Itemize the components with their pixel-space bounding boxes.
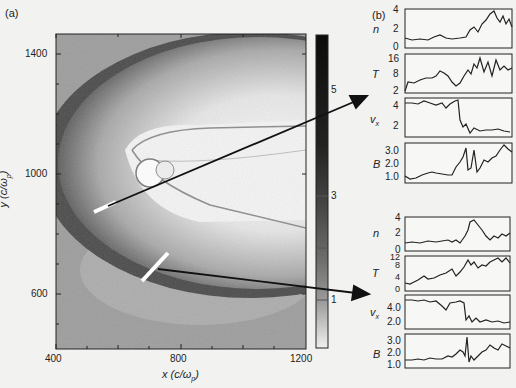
lower-vx-tick-4: 4.0 [387,302,401,313]
x-tick-400: 400 [45,353,62,364]
lower-T-tick-0: 0 [395,284,400,294]
upper-B-tick-1: 1.0 [385,171,399,182]
lower-B-tick-3: 3.0 [387,335,401,346]
colorbar [316,35,328,348]
upper-B-tick-3: 3.0 [385,145,399,156]
upper-T-tick-8: 8 [393,68,399,79]
upper-B-label: B [373,158,380,170]
x-tick-800: 800 [170,353,187,364]
y-tick-1400: 1400 [25,48,47,59]
figure-graphics [0,0,516,388]
upper-n-tick-2: 2 [393,23,399,34]
x-tick-1200: 1200 [290,353,312,364]
upper-vx-tick-4: 4 [393,100,399,111]
upper-n-label: n [373,23,379,35]
lower-vx-tick-2: 2.0 [387,316,401,327]
upper-vx-tick-2: 2 [393,120,399,131]
upper-n-tick-0: 0 [393,41,399,52]
x-axis-title: x (c/ωp) [162,368,199,382]
lower-T-label: T [372,267,379,279]
upper-vx-label: vx [370,113,379,127]
y-tick-1000: 1000 [25,168,47,179]
lower-B-tick-2: 2.0 [387,347,401,358]
y-tick-600: 600 [31,288,48,299]
colorbar-tick-5: 5 [331,84,337,95]
lower-T-tick-4: 4 [395,272,400,282]
lower-B-label: B [373,348,380,360]
colorbar-tick-1: 1 [331,294,337,305]
y-axis-title: y (c/ωp) [0,171,12,208]
upper-n-tick-4: 4 [393,4,399,15]
lower-n-tick-2: 2 [395,227,401,238]
colorbar-tick-3: 3 [331,190,337,201]
upper-T-label: T [372,68,379,80]
lower-B-tick-1: 1.0 [387,359,401,370]
upper-T-tick-16: 16 [388,53,399,64]
panel-b-upper [405,9,512,183]
lower-T-tick-8: 8 [395,260,400,270]
panel-b-lower [405,217,510,368]
upper-B-tick-2: 2.0 [385,158,399,169]
upper-T-tick-2: 2 [393,85,399,96]
lower-n-tick-4: 4 [395,212,401,223]
lower-n-label: n [373,227,379,239]
lower-vx-label: vx [370,306,379,320]
